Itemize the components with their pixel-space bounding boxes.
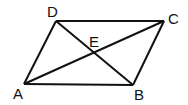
diagonal-db: [56, 21, 133, 85]
edge-ab: [24, 84, 133, 85]
geometry-diagram: A B C D E: [0, 0, 188, 105]
label-c: C: [168, 10, 179, 27]
edge-da: [24, 21, 56, 84]
label-a: A: [13, 85, 23, 102]
label-d: D: [47, 3, 58, 20]
edge-bc: [133, 21, 164, 85]
label-b: B: [134, 86, 144, 103]
label-e: E: [89, 33, 99, 50]
